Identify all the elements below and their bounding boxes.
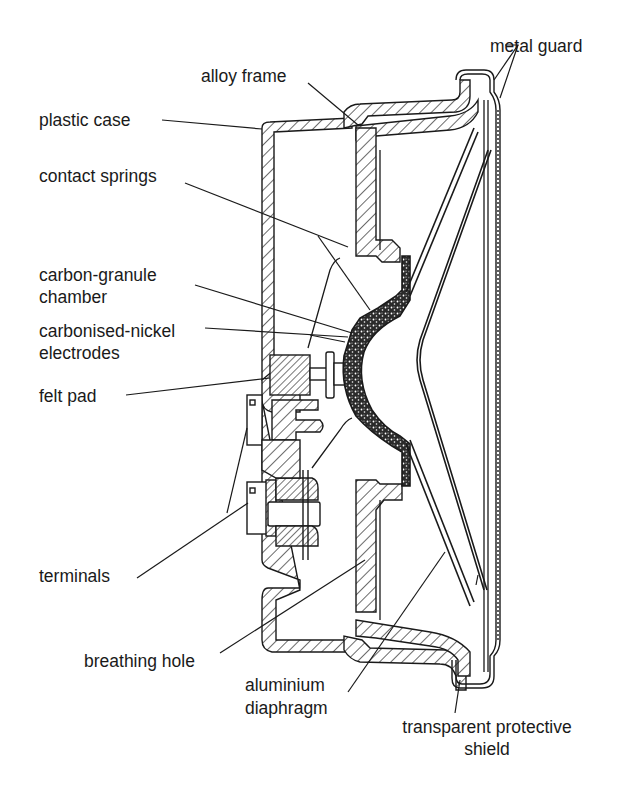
label-carbon-granule-chamber-line1: carbon-granule <box>39 265 157 286</box>
label-carbonised-nickel-line1: carbonised-nickel <box>39 321 175 342</box>
electrode-stem-shape <box>310 352 348 398</box>
label-terminals: terminals <box>39 566 110 587</box>
label-metal-guard: metal guard <box>490 36 582 57</box>
spring-bracket <box>272 400 323 440</box>
label-aluminium-diaphragm-line1: aluminium <box>245 675 325 696</box>
label-breathing-hole: breathing hole <box>84 651 195 672</box>
label-aluminium-diaphragm-line2: diaphragm <box>245 698 328 719</box>
label-plastic-case: plastic case <box>39 110 130 131</box>
leader-plastic-case <box>162 120 262 129</box>
label-carbon-granule-chamber-line2: chamber <box>39 287 107 308</box>
lower-case-block <box>262 440 300 478</box>
leader-terminals-1 <box>137 503 248 578</box>
label-alloy-frame: alloy frame <box>201 66 287 87</box>
label-felt-pad: felt pad <box>39 386 96 407</box>
leader-felt-pad <box>126 378 270 395</box>
label-transparent-shield-line1: transparent protective <box>380 717 594 738</box>
carbon-granule-chamber-shape <box>343 256 410 486</box>
aluminium-diaphragm-shape <box>406 128 491 606</box>
label-carbonised-nickel-line2: electrodes <box>39 343 120 364</box>
alloy-frame-shape <box>344 80 478 690</box>
label-contact-springs: contact springs <box>39 166 157 187</box>
felt-pad-shape <box>270 355 310 395</box>
label-transparent-shield-line2: shield <box>380 739 594 760</box>
leader-terminals-2 <box>227 428 247 513</box>
leader-carbonised-nickel-1 <box>205 328 348 337</box>
